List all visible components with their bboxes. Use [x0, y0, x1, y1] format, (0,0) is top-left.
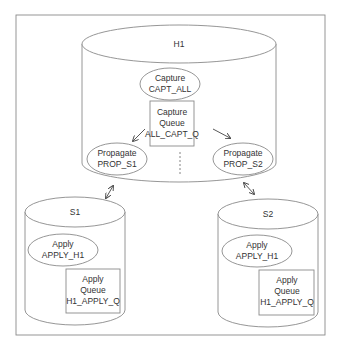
svg-text:H1_APPLY_Q: H1_APPLY_Q — [66, 296, 120, 306]
capture-process: Capture CAPT_ALL — [140, 68, 200, 100]
svg-text:ALL_CAPT_Q: ALL_CAPT_Q — [145, 129, 199, 139]
svg-text:APPLY_H1: APPLY_H1 — [42, 250, 85, 260]
spoke-database-s2: S2 Apply APPLY_H1 Apply Queue H1_APPLY_Q — [218, 199, 318, 327]
spoke-label: S1 — [70, 207, 81, 217]
svg-text:Queue: Queue — [159, 118, 185, 128]
svg-text:Queue: Queue — [80, 285, 106, 295]
hub-label: H1 — [174, 39, 185, 49]
spoke-database-s1: S1 Apply APPLY_H1 Apply Queue H1_APPLY_Q — [25, 197, 125, 325]
svg-text:Apply: Apply — [246, 240, 268, 250]
svg-text:Queue: Queue — [274, 286, 300, 296]
svg-text:Apply: Apply — [82, 274, 104, 284]
svg-text:Capture: Capture — [155, 73, 186, 83]
svg-text:CAPT_ALL: CAPT_ALL — [149, 84, 192, 94]
svg-text:Capture: Capture — [157, 107, 188, 117]
svg-text:H1_APPLY_Q: H1_APPLY_Q — [260, 297, 314, 307]
svg-text:PROP_S1: PROP_S1 — [97, 159, 136, 169]
svg-text:Propagate: Propagate — [97, 148, 136, 158]
svg-text:PROP_S2: PROP_S2 — [223, 159, 262, 169]
capture-queue: Capture Queue ALL_CAPT_Q — [145, 101, 199, 146]
propagate-s1: Propagate PROP_S1 — [87, 143, 147, 175]
spoke-label: S2 — [263, 209, 274, 219]
svg-text:Apply: Apply — [276, 275, 298, 285]
replication-diagram: H1 Capture CAPT_ALL Capture Queue ALL_CA… — [0, 0, 337, 352]
svg-text:Propagate: Propagate — [223, 148, 262, 158]
link-h1-s2 — [244, 183, 254, 194]
link-h1-s1 — [106, 186, 113, 198]
propagate-s2: Propagate PROP_S2 — [213, 143, 273, 175]
svg-text:APPLY_H1: APPLY_H1 — [236, 251, 279, 261]
svg-text:Apply: Apply — [52, 239, 74, 249]
